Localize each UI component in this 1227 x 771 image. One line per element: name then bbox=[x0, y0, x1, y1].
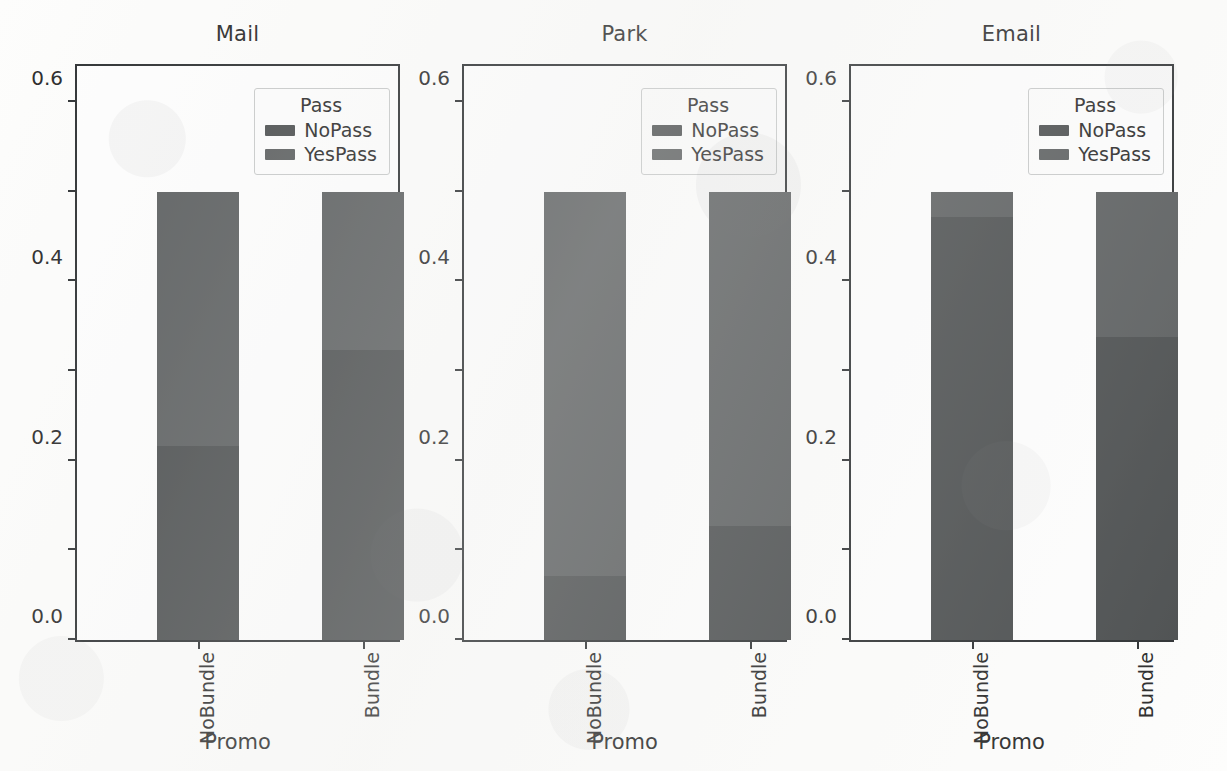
y-axis-tick: 0.4 bbox=[68, 459, 77, 461]
legend-swatch-icon bbox=[1039, 125, 1069, 136]
y-axis-tick-label: 0.6 bbox=[31, 66, 63, 90]
bar-segment-nopass bbox=[322, 350, 404, 640]
legend-item-nopass[interactable]: NoPass bbox=[652, 118, 764, 142]
axes-frame: 0.00.20.40.60.81.01.2NoBundleBundlePromo… bbox=[75, 64, 400, 642]
x-axis-tick bbox=[198, 640, 200, 649]
stacked-bar-nobundle bbox=[544, 62, 626, 640]
stacked-bar-nobundle bbox=[157, 62, 239, 640]
y-axis-tick-label: 0.6 bbox=[418, 66, 450, 90]
legend-swatch-icon bbox=[265, 149, 295, 160]
x-axis-label: Promo bbox=[77, 730, 398, 754]
y-axis-tick: 0.2 bbox=[68, 548, 77, 550]
legend-item-label: YesPass bbox=[1078, 142, 1151, 166]
y-axis-tick: 0.4 bbox=[455, 459, 464, 461]
stacked-bar-nobundle bbox=[931, 62, 1013, 640]
bar-segment-yespass bbox=[157, 192, 239, 446]
y-axis-tick: 0.4 bbox=[842, 459, 851, 461]
bar-segment-yespass bbox=[931, 192, 1013, 217]
x-axis-label: Promo bbox=[851, 730, 1172, 754]
panel-title: Park bbox=[462, 22, 787, 46]
y-axis-tick-label: 0.4 bbox=[418, 245, 450, 269]
y-axis-tick-label: 0.0 bbox=[418, 604, 450, 628]
x-axis-tick bbox=[1137, 640, 1139, 649]
legend: PassNoPassYesPass bbox=[254, 88, 390, 175]
x-axis-tick-label-bundle: Bundle bbox=[1135, 652, 1157, 718]
x-axis-tick-label-bundle: Bundle bbox=[748, 652, 770, 718]
x-axis-label: Promo bbox=[464, 730, 785, 754]
y-axis-tick: 1.2 bbox=[842, 100, 851, 102]
y-axis-tick-label: 0.4 bbox=[805, 245, 837, 269]
y-axis-tick: 0.6 bbox=[842, 369, 851, 371]
facet-panel-park: Park0.00.20.40.60.81.01.2NoBundleBundleP… bbox=[462, 64, 787, 642]
legend: PassNoPassYesPass bbox=[641, 88, 777, 175]
facet-panel-email: Email0.00.20.40.60.81.01.2NoBundleBundle… bbox=[849, 64, 1174, 642]
legend-swatch-icon bbox=[1039, 149, 1069, 160]
bar-segment-nopass bbox=[544, 576, 626, 640]
legend-item-yespass[interactable]: YesPass bbox=[1039, 142, 1151, 166]
bar-segment-yespass bbox=[1096, 192, 1178, 337]
bar-segment-nopass bbox=[157, 446, 239, 640]
legend-swatch-icon bbox=[652, 149, 682, 160]
x-axis-tick bbox=[585, 640, 587, 649]
y-axis-tick-label: 0.4 bbox=[31, 245, 63, 269]
legend-item-nopass[interactable]: NoPass bbox=[265, 118, 377, 142]
legend-swatch-icon bbox=[652, 125, 682, 136]
y-axis-tick: 0.2 bbox=[455, 548, 464, 550]
y-axis-tick-label: 0.2 bbox=[805, 425, 837, 449]
y-axis-tick-label: 0.0 bbox=[31, 604, 63, 628]
legend-item-label: NoPass bbox=[1078, 118, 1146, 142]
legend-title: Pass bbox=[1039, 94, 1151, 116]
legend: PassNoPassYesPass bbox=[1028, 88, 1164, 175]
axes-frame: 0.00.20.40.60.81.01.2NoBundleBundlePromo… bbox=[849, 64, 1174, 642]
panel-title: Email bbox=[849, 22, 1174, 46]
y-axis-tick-label: 0.0 bbox=[805, 604, 837, 628]
x-axis-tick bbox=[750, 640, 752, 649]
legend-item-nopass[interactable]: NoPass bbox=[1039, 118, 1151, 142]
y-axis-tick: 1.2 bbox=[68, 100, 77, 102]
y-axis-tick: 0.0 bbox=[455, 638, 464, 640]
y-axis-tick: 0.8 bbox=[455, 279, 464, 281]
y-axis-tick: 0.0 bbox=[842, 638, 851, 640]
y-axis-tick-label: 0.6 bbox=[805, 66, 837, 90]
legend-item-label: YesPass bbox=[304, 142, 377, 166]
panel-title: Mail bbox=[75, 22, 400, 46]
y-axis-tick: 0.2 bbox=[842, 548, 851, 550]
legend-item-yespass[interactable]: YesPass bbox=[265, 142, 377, 166]
legend-swatch-icon bbox=[265, 125, 295, 136]
bar-segment-yespass bbox=[322, 192, 404, 350]
y-axis-tick: 1.0 bbox=[68, 190, 77, 192]
y-axis-tick-label: 0.2 bbox=[418, 425, 450, 449]
y-axis-tick: 0.8 bbox=[68, 279, 77, 281]
y-axis-tick: 1.2 bbox=[455, 100, 464, 102]
x-axis-tick-label-bundle: Bundle bbox=[361, 652, 383, 718]
x-axis-tick bbox=[363, 640, 365, 649]
y-axis-tick: 0.6 bbox=[68, 369, 77, 371]
y-axis-tick-label: 0.2 bbox=[31, 425, 63, 449]
y-axis-tick: 0.6 bbox=[455, 369, 464, 371]
y-axis-tick: 0.8 bbox=[842, 279, 851, 281]
facet-panel-mail: Mail0.00.20.40.60.81.01.2NoBundleBundleP… bbox=[75, 64, 400, 642]
y-axis-tick: 1.0 bbox=[842, 190, 851, 192]
legend-title: Pass bbox=[265, 94, 377, 116]
y-axis-tick: 1.0 bbox=[455, 190, 464, 192]
axes-frame: 0.00.20.40.60.81.01.2NoBundleBundlePromo… bbox=[462, 64, 787, 642]
legend-item-label: NoPass bbox=[304, 118, 372, 142]
y-axis-tick: 0.0 bbox=[68, 638, 77, 640]
legend-title: Pass bbox=[652, 94, 764, 116]
bar-segment-yespass bbox=[544, 192, 626, 576]
legend-item-label: YesPass bbox=[691, 142, 764, 166]
bar-segment-nopass bbox=[931, 217, 1013, 640]
legend-item-label: NoPass bbox=[691, 118, 759, 142]
bar-segment-yespass bbox=[709, 192, 791, 527]
bar-segment-nopass bbox=[709, 526, 791, 640]
bar-segment-nopass bbox=[1096, 337, 1178, 640]
x-axis-tick bbox=[972, 640, 974, 649]
legend-item-yespass[interactable]: YesPass bbox=[652, 142, 764, 166]
chart-figure: Mail0.00.20.40.60.81.01.2NoBundleBundleP… bbox=[0, 0, 1227, 771]
